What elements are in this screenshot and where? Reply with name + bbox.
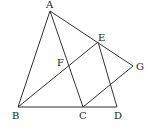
label-c: C [79, 110, 87, 121]
segment-ac [50, 11, 83, 107]
label-a: A [45, 0, 54, 10]
segment-be [18, 42, 98, 107]
label-b: B [12, 110, 19, 121]
segments [18, 11, 133, 107]
geometry-diagram: A B C D E F G [0, 0, 153, 128]
segment-ab [18, 11, 50, 107]
segment-cg [83, 66, 133, 107]
label-f: F [57, 57, 64, 68]
label-g: G [136, 61, 144, 72]
segment-ed [98, 42, 117, 107]
label-e: E [98, 32, 105, 43]
label-d: D [114, 110, 122, 121]
